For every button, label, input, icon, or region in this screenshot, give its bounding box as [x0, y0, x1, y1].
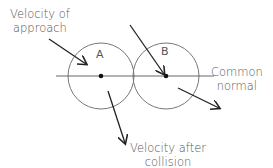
ball-a-center: [99, 74, 104, 79]
ball-b-label: B: [161, 45, 169, 58]
approach-label: Velocity of approach: [10, 7, 70, 35]
approach-arrow-a: [49, 39, 86, 64]
ball-b-center: [164, 74, 169, 79]
after-arrow-a: [108, 91, 125, 143]
approach-arrow-b: [130, 25, 164, 74]
common-normal-label: Common normal: [211, 65, 263, 93]
ball-a-label: A: [96, 48, 104, 61]
after-label: Velocity after collision: [130, 141, 206, 168]
